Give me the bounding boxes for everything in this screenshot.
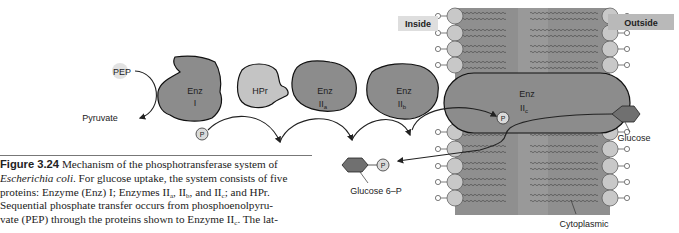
figure-number: Figure 3.24 [0, 158, 59, 170]
caption-divider [0, 155, 312, 156]
lipid-head [602, 141, 618, 157]
glucose6p-hexagon [342, 158, 368, 172]
lipid-head [602, 190, 618, 206]
caption-text: , and II [190, 186, 222, 198]
pyruvate-label: Pyruvate [82, 113, 118, 123]
lipid-head [447, 8, 463, 24]
lipid-phosphate-group [435, 30, 440, 35]
lipid-phosphate-group [624, 62, 629, 67]
lipid-head [447, 25, 463, 41]
lipid-head [602, 174, 618, 190]
lipid-phosphate-group [435, 146, 440, 151]
lipid-head [602, 158, 618, 174]
enzyme-i-sub: I [194, 98, 197, 108]
lipid-phosphate-group [435, 129, 440, 134]
lipid-phosphate-group [624, 179, 629, 184]
enzyme-iic [444, 73, 630, 133]
transfer-arrow-1 [208, 116, 280, 142]
lipid-head [447, 158, 463, 174]
glucose-label: Glucose [617, 133, 650, 143]
caption-text: Mechanism of the phosphotransferase syst… [59, 158, 278, 170]
lipid-phosphate-group [435, 46, 440, 51]
lipid-phosphate-group [435, 195, 440, 200]
lipid-phosphate-group [624, 146, 629, 151]
lipid-head [447, 174, 463, 190]
lipid-head [447, 41, 463, 57]
outside-label: Outside [624, 18, 658, 28]
lipid-phosphate-group [624, 163, 629, 168]
glucose6p-label: Glucose 6–P [350, 186, 402, 196]
hpr-label: HPr [252, 86, 268, 96]
lipid-head [447, 190, 463, 206]
enzyme-i-name: Enz [187, 86, 203, 96]
lipid-phosphate-group [624, 46, 629, 51]
lipid-head [447, 57, 463, 73]
caption-text: Sequential phosphate transfer occurs fro… [0, 199, 273, 211]
transfer-arrow-2 [280, 119, 352, 142]
phosphate-enz-i-label: P [200, 131, 205, 138]
caption-text: , II [173, 186, 186, 198]
caption-text: vate (PEP) through the proteins shown to… [0, 213, 234, 225]
cytoplasmic-label: Cytoplasmic [559, 219, 609, 229]
caption-species: Escherichia coli [0, 172, 73, 184]
enzyme-iic-name: Enz [519, 89, 535, 99]
enzyme-iib-name: Enz [396, 86, 412, 96]
lipid-phosphate-group [624, 195, 629, 200]
figure-caption: Figure 3.24 Mechanism of the phosphotran… [0, 158, 312, 227]
caption-text: . The lat- [237, 213, 278, 225]
phosphate-enz-iic-label: P [501, 115, 506, 122]
lipid-phosphate-group [624, 30, 629, 35]
caption-text: proteins: Enzyme (Enz) I; Enzymes II [0, 186, 170, 198]
lipid-head [602, 41, 618, 57]
lipid-head [602, 57, 618, 73]
phosphate-glucose6p-label: P [381, 162, 386, 169]
transfer-arrow-3 [352, 120, 410, 140]
enzyme-iia-name: Enz [317, 86, 333, 96]
lipid-phosphate-group [435, 163, 440, 168]
caption-text: ; and HPr. [225, 186, 270, 198]
pep-label: PEP [113, 67, 131, 77]
inside-label: Inside [405, 19, 431, 29]
caption-text: . For glucose uptake, the system consist… [73, 172, 287, 184]
pep-arrow [135, 71, 156, 118]
lipid-phosphate-group [435, 62, 440, 67]
lipid-phosphate-group [435, 179, 440, 184]
